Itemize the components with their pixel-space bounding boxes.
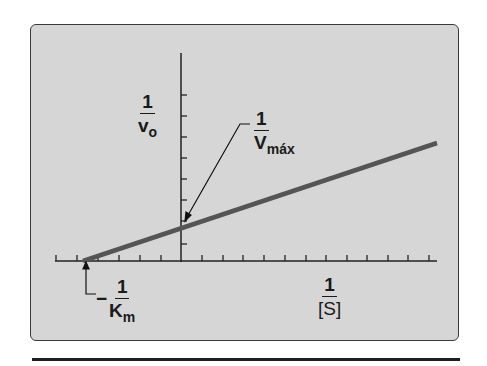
- km-label-numerator: 1: [115, 277, 130, 299]
- km-label-minus: −: [96, 289, 107, 308]
- y-axis-label-numerator: 1: [140, 92, 155, 114]
- vmax-label: 1 Vmáx: [254, 109, 295, 152]
- x-axis-label-denominator: [S]: [318, 297, 341, 318]
- vmax-label-denominator: V: [254, 132, 267, 153]
- lineweaver-burk-plot: [0, 0, 487, 366]
- km-label-denominator: K: [109, 300, 123, 321]
- y-axis-label-denominator: v: [138, 115, 149, 136]
- y-axis-label: 1 vo: [138, 92, 157, 135]
- x-axis-label-numerator: 1: [322, 275, 337, 297]
- km-arrow-icon: [83, 262, 96, 294]
- km-label-subscript: m: [123, 309, 135, 325]
- y-axis-label-subscript: o: [149, 124, 158, 140]
- regression-line: [83, 143, 437, 261]
- vmax-label-numerator: 1: [254, 109, 269, 131]
- x-axis-label: 1 [S]: [318, 275, 341, 318]
- vmax-label-subscript: máx: [267, 141, 295, 157]
- x-axis-ticks: [56, 255, 429, 261]
- y-axis-ticks: [181, 95, 187, 244]
- bottom-divider: [32, 358, 460, 361]
- km-label: − 1 Km: [96, 277, 135, 320]
